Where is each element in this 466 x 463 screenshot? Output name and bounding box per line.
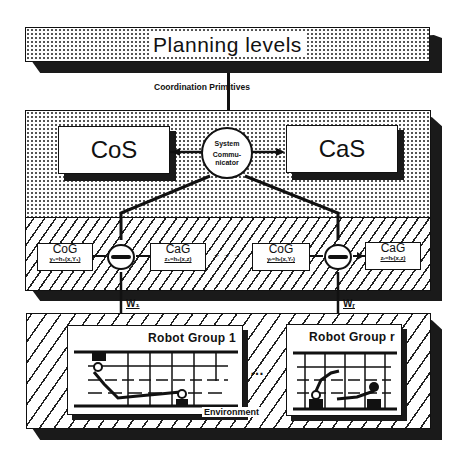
robot-group-r[interactable]: Robot Group r bbox=[286, 324, 402, 416]
cog-box-r-title: CoG bbox=[253, 244, 309, 255]
system-communicator-line3: nicator bbox=[215, 159, 238, 167]
link-label-w1: W₁ bbox=[126, 298, 140, 309]
cog-box-r-formula: yᵣ=hᵣ(x,Yᵣ) bbox=[253, 255, 309, 263]
group-communicator-1[interactable] bbox=[107, 244, 135, 270]
group-communicator-r-bar bbox=[328, 255, 348, 259]
cag-box-1-title: CaG bbox=[151, 244, 205, 255]
robot-group-1[interactable]: Robot Group 1 bbox=[67, 325, 243, 415]
system-communicator[interactable]: System Commu- nicator bbox=[201, 127, 253, 179]
robot-cell-1-drawing bbox=[68, 326, 244, 416]
cag-box-r-formula: zᵣ=hᵣ(x,z) bbox=[366, 254, 420, 262]
cag-box-r[interactable]: CaG zᵣ=hᵣ(x,z) bbox=[365, 242, 421, 270]
system-communicator-line2: Commu- bbox=[213, 151, 241, 159]
robot-groups-ellipsis: … bbox=[250, 362, 264, 378]
robot-cell-r-drawing bbox=[287, 325, 403, 417]
cog-box-1-formula: y₁=h₁(x,Y₁) bbox=[38, 255, 92, 263]
cog-box-r[interactable]: CoG yᵣ=hᵣ(x,Yᵣ) bbox=[252, 243, 310, 271]
cag-box-r-title: CaG bbox=[366, 243, 420, 254]
environment-label: Environment bbox=[202, 407, 261, 417]
cag-box-1-formula: z₁=h₁(x,z) bbox=[151, 255, 205, 263]
cag-box-1[interactable]: CaG z₁=h₁(x,z) bbox=[150, 243, 206, 271]
system-communicator-line1: System bbox=[215, 140, 240, 148]
group-communicator-1-bar bbox=[111, 255, 131, 259]
cog-box-1[interactable]: CoG y₁=h₁(x,Y₁) bbox=[37, 243, 93, 271]
group-communicator-r[interactable] bbox=[324, 244, 352, 270]
group-ellipsis: → → → bbox=[212, 250, 240, 259]
link-label-wr: Wᵣ bbox=[343, 298, 355, 309]
cog-box-1-title: CoG bbox=[38, 244, 92, 255]
